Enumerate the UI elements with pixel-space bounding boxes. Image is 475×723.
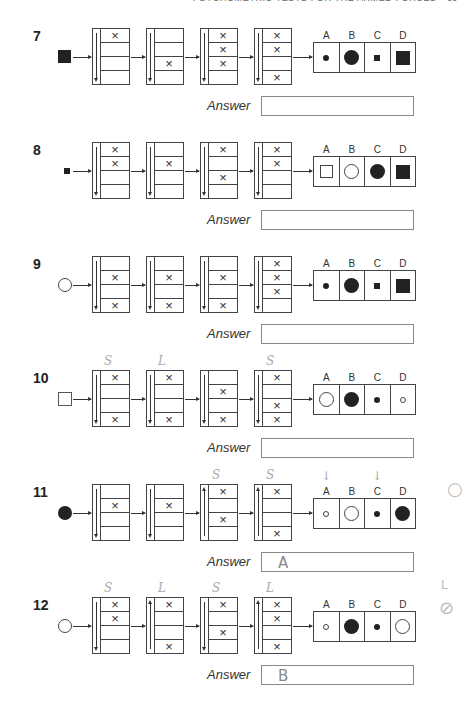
option-b[interactable]: B	[340, 385, 366, 414]
cross-mark-cell: ×	[209, 57, 237, 71]
answer-label: Answer	[207, 212, 250, 227]
gate-cells: ××	[101, 143, 129, 198]
option-a[interactable]: A↓	[314, 499, 340, 528]
cross-mark-cell: ×	[155, 299, 183, 312]
answer-input[interactable]	[261, 438, 414, 458]
square-large-filled-icon	[396, 165, 410, 179]
arrow-down-icon	[202, 306, 206, 310]
arrow-icon	[185, 171, 199, 172]
question-11: 11××××S××SA↓BC↓DAnswerA	[0, 478, 475, 592]
gate-cells: ××	[155, 598, 183, 653]
empty-cell	[101, 626, 129, 640]
empty-cell	[209, 285, 237, 299]
arrow-icon	[185, 285, 199, 286]
cross-mark-cell: ×	[263, 612, 291, 626]
option-c[interactable]: C↓	[365, 499, 391, 528]
option-a[interactable]: A	[314, 157, 340, 186]
answer-input[interactable]: B	[261, 665, 414, 685]
cross-mark-cell: ×	[263, 43, 291, 57]
handwritten-note: S	[104, 581, 112, 595]
cross-mark-cell: ×	[101, 413, 129, 426]
circle-large-open-icon	[344, 164, 359, 179]
input-shape-icon	[58, 392, 72, 406]
cross-mark-cell: ×	[101, 371, 129, 385]
square-small-filled-icon	[374, 55, 380, 61]
option-a[interactable]: A	[314, 271, 340, 300]
arrow-icon	[131, 285, 145, 286]
empty-cell	[101, 385, 129, 399]
margin-handwritten-mark: ○	[447, 478, 463, 499]
answer-label: Answer	[207, 326, 250, 341]
option-label: C	[365, 258, 390, 269]
answer-options: A↓BC↓D	[313, 498, 416, 529]
answer-input[interactable]	[261, 210, 414, 230]
arrow-icon	[73, 285, 91, 286]
empty-cell	[155, 385, 183, 399]
option-b[interactable]: B	[340, 43, 366, 72]
option-d[interactable]: D	[391, 157, 416, 186]
empty-cell	[209, 257, 237, 271]
option-a[interactable]: A	[314, 385, 340, 414]
arrow-shaft	[150, 489, 151, 536]
arrow-icon	[131, 626, 145, 627]
option-b[interactable]: B	[340, 499, 366, 528]
option-c[interactable]: C	[365, 612, 391, 641]
arrow-down-icon	[148, 78, 152, 82]
gate-cells: ×	[155, 143, 183, 198]
option-b[interactable]: B	[340, 157, 366, 186]
option-d[interactable]: D	[391, 271, 416, 300]
gate-box: ××	[200, 484, 238, 541]
empty-cell	[155, 71, 183, 84]
option-label: C	[365, 486, 390, 497]
empty-cell	[155, 143, 183, 157]
handwritten-note: S	[212, 581, 220, 595]
answer-input[interactable]	[261, 324, 414, 344]
cross-mark-cell: ×	[209, 626, 237, 640]
option-d[interactable]: D	[391, 43, 416, 72]
option-c[interactable]: C	[365, 43, 391, 72]
gate-cells: ×××	[263, 29, 291, 84]
direction-strip	[201, 143, 209, 198]
cross-mark-cell: ×	[101, 157, 129, 171]
direction-strip	[255, 371, 263, 426]
option-c[interactable]: C	[365, 385, 391, 414]
arrow-icon	[185, 626, 199, 627]
gate-box: ××	[146, 256, 184, 313]
option-a[interactable]: A	[314, 43, 340, 72]
cross-mark-cell: ×	[155, 499, 183, 513]
gate-box: ××	[254, 142, 292, 199]
option-b[interactable]: B	[340, 612, 366, 641]
option-d[interactable]: D	[391, 499, 416, 528]
question-7: 7××××××××ABCDAnswer	[0, 22, 475, 136]
direction-strip	[93, 143, 101, 198]
arrow-down-icon	[256, 420, 260, 424]
empty-cell	[209, 612, 237, 626]
option-a[interactable]: A	[314, 612, 340, 641]
option-label: A	[314, 144, 339, 155]
arrow-shaft	[258, 33, 259, 80]
option-d[interactable]: D	[391, 612, 416, 641]
question-number: 10	[33, 370, 49, 386]
option-d[interactable]: D	[391, 385, 416, 414]
answer-input[interactable]	[261, 96, 414, 116]
empty-cell	[101, 71, 129, 84]
input-shape-icon	[58, 619, 72, 633]
option-c[interactable]: C	[365, 271, 391, 300]
option-c[interactable]: C	[365, 157, 391, 186]
dot-small-filled-icon	[374, 624, 380, 630]
option-label: A	[314, 258, 339, 269]
cross-mark-cell: ×	[101, 143, 129, 157]
answer-input[interactable]: A	[261, 552, 414, 572]
arrow-down-icon	[148, 420, 152, 424]
square-small-filled-icon	[374, 283, 380, 289]
direction-strip	[201, 598, 209, 653]
gate-cells: ××	[101, 598, 129, 653]
arrow-shaft	[150, 33, 151, 80]
cross-mark-cell: ×	[263, 371, 291, 385]
arrow-icon	[73, 57, 91, 58]
arrow-shaft	[96, 147, 97, 194]
empty-cell	[263, 626, 291, 640]
option-b[interactable]: B	[340, 271, 366, 300]
option-label: B	[340, 599, 365, 610]
arrow-icon	[239, 626, 253, 627]
